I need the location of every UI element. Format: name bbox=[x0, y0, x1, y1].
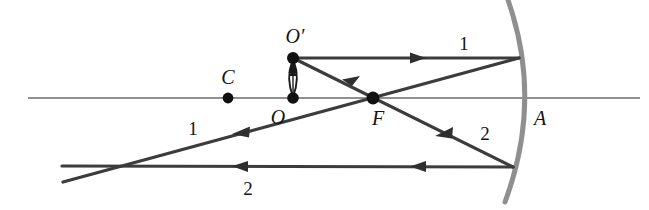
concave-mirror-arc bbox=[505, 0, 525, 202]
point-dot-C bbox=[223, 93, 234, 104]
label-object-base: O bbox=[271, 107, 285, 127]
ray-1-incident-arrowhead bbox=[410, 53, 426, 64]
ray-2-reflected-arrowhead-right bbox=[410, 161, 426, 172]
label-ray-2-reflected: 2 bbox=[243, 179, 253, 198]
ray-diagram-canvas bbox=[0, 0, 649, 210]
label-ray-1-incident: 1 bbox=[459, 34, 469, 53]
label-ray-2-incident: 2 bbox=[480, 124, 490, 143]
label-mirror-vertex: A bbox=[534, 108, 546, 128]
ray-2-reflected bbox=[62, 166, 513, 167]
point-dot-F bbox=[367, 92, 380, 105]
label-ray-1-reflected: 1 bbox=[188, 119, 198, 138]
label-focal-point: F bbox=[372, 108, 384, 128]
ray-1-reflected bbox=[63, 58, 519, 182]
point-dot-O bbox=[287, 92, 299, 104]
label-center-of-curvature: C bbox=[221, 67, 234, 87]
ray-2-reflected-arrowhead-left bbox=[232, 161, 248, 172]
point-dot-Op bbox=[287, 52, 299, 64]
object-arrow bbox=[289, 60, 298, 97]
ray-2-incident bbox=[293, 58, 513, 167]
label-object-top: O′ bbox=[286, 26, 305, 46]
optics-ray-diagram: O′ O C F A 1 1 2 2 bbox=[0, 0, 649, 210]
